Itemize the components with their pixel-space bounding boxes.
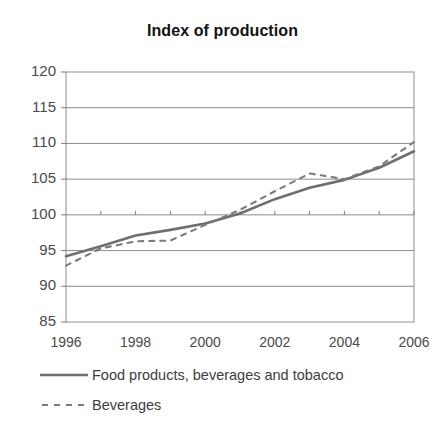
plot-frame (66, 72, 414, 322)
x-axis-minor-ticks (101, 211, 414, 215)
x-tick-label: 2006 (391, 334, 437, 350)
x-tick-label: 1996 (43, 334, 89, 350)
legend-item-beverages: Beverages (38, 390, 438, 420)
x-tick-label: 1998 (113, 334, 159, 350)
x-tick-label: 2002 (252, 334, 298, 350)
y-tick-label: 110 (16, 133, 56, 150)
dashed-line-key (38, 398, 92, 412)
x-tick-label: 2004 (321, 334, 367, 350)
y-tick-label: 85 (16, 312, 56, 329)
x-tick-label: 2000 (182, 334, 228, 350)
chart-legend: Food products, beverages and tobacco Bev… (38, 360, 438, 420)
y-tick-label: 100 (16, 205, 56, 222)
y-axis-tick-marks (61, 72, 66, 322)
series-line-beverages (66, 142, 414, 266)
legend-label-beverages: Beverages (92, 397, 161, 413)
y-tick-label: 115 (16, 98, 56, 115)
legend-label-food-products: Food products, beverages and tobacco (92, 367, 344, 383)
y-tick-label: 120 (16, 62, 56, 79)
solid-line-key (38, 368, 92, 382)
y-tick-label: 95 (16, 241, 56, 258)
y-tick-label: 90 (16, 276, 56, 293)
series-line-food-products (66, 151, 414, 256)
series-layer (66, 142, 414, 266)
chart-container: Index of production 12011511010510095908… (0, 0, 445, 436)
y-tick-label: 105 (16, 169, 56, 186)
gridlines (66, 108, 414, 287)
legend-item-food-products: Food products, beverages and tobacco (38, 360, 438, 390)
